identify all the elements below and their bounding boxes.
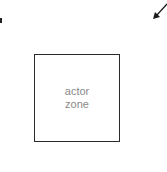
arrow-down-left-icon (150, 0, 167, 22)
actor-zone-box: actor zone (34, 54, 120, 142)
edge-mark (0, 18, 2, 23)
actor-zone-label: actor zone (57, 85, 97, 111)
